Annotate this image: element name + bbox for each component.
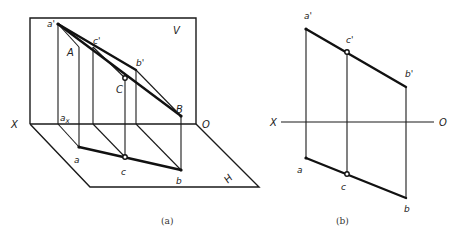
- label-c-b: c: [341, 182, 346, 192]
- label-x-axis-b: X: [269, 117, 278, 128]
- label-B: B: [176, 104, 183, 115]
- line-a-prime-b-prime-b: [306, 29, 406, 87]
- caption-b: (b): [336, 216, 349, 226]
- label-a-prime-b: a': [304, 11, 312, 21]
- point-a-b: [304, 156, 307, 159]
- point-c-prime-b: [345, 50, 349, 54]
- point-a: [77, 145, 80, 148]
- figure-b: a' c' b' a c b X O (b): [269, 11, 447, 226]
- point-C: [123, 76, 127, 80]
- point-c: [123, 155, 127, 159]
- point-c-b: [345, 172, 349, 176]
- label-x-axis: X: [10, 119, 19, 130]
- label-b-prime-b: b': [405, 69, 413, 79]
- label-o-origin-b: O: [439, 117, 447, 128]
- label-c-prime-b: c': [346, 35, 353, 45]
- label-a-b: a: [297, 165, 303, 175]
- label-v-plane: V: [173, 25, 181, 36]
- label-C: C: [116, 84, 123, 95]
- label-b-b: b: [404, 204, 410, 214]
- label-a-prime: a': [47, 19, 55, 29]
- projector-ax-a: [58, 124, 79, 147]
- label-o-origin: O: [202, 119, 210, 130]
- figure-a: a' c' b' A C B a c b ax V H X O (a): [10, 18, 259, 226]
- label-ax: ax: [60, 113, 71, 125]
- line-ab: [79, 147, 181, 170]
- label-c: c: [121, 167, 126, 177]
- line-AB: [58, 24, 181, 116]
- label-h-plane: H: [222, 172, 235, 185]
- label-a: a: [74, 155, 80, 165]
- label-c-prime: c': [93, 36, 100, 46]
- point-a-prime: [56, 22, 59, 25]
- label-b-prime: b': [136, 58, 144, 68]
- projector-b-prime-B: [136, 70, 181, 116]
- projector-bx-b: [136, 124, 181, 170]
- projection-diagram: a' c' b' A C B a c b ax V H X O (a) a' c…: [0, 0, 453, 242]
- label-b: b: [176, 176, 182, 186]
- point-a-prime-b: [304, 27, 307, 30]
- point-b: [179, 168, 182, 171]
- line-ab-b: [306, 158, 406, 198]
- caption-a: (a): [161, 216, 173, 226]
- label-A: A: [66, 47, 74, 58]
